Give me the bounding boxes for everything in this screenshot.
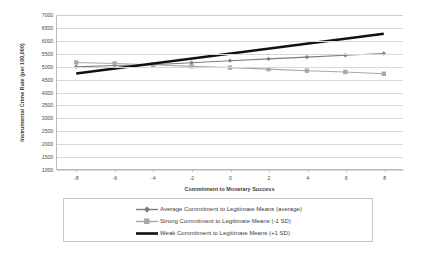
- data-point-marker: [266, 57, 270, 61]
- legend-label: Average Commitment to Legitimate Means (…: [160, 205, 302, 214]
- chart-legend: Average Commitment to Legitimate Means (…: [63, 198, 373, 242]
- legend-marker-diamond-icon: [136, 205, 158, 214]
- x-axis-tick-label: -4: [151, 176, 156, 181]
- y-axis-tick-label: 4500: [42, 78, 53, 83]
- x-axis-tick-mark: [346, 169, 347, 172]
- gridline-horizontal: 3000: [57, 118, 403, 119]
- x-axis-tick-mark: [192, 169, 193, 172]
- gridline-horizontal: 2000: [57, 144, 403, 145]
- y-axis-tick-label: 3000: [42, 117, 53, 122]
- gridline-horizontal: 3500: [57, 105, 403, 106]
- x-axis-tick-mark: [115, 169, 116, 172]
- y-axis-tick-label: 6500: [42, 26, 53, 31]
- x-axis-tick-label: 8: [383, 176, 386, 181]
- y-axis-tick-label: 4000: [42, 91, 53, 96]
- x-axis-tick-mark: [76, 169, 77, 172]
- y-axis-tick-label: 5500: [42, 52, 53, 57]
- data-point-marker: [74, 60, 78, 64]
- y-axis-tick-label: 5000: [42, 65, 53, 70]
- legend-label: Weak Commitment to Legitimate Means (+1 …: [160, 229, 290, 238]
- plot-area: 1000150020002500300035004000450050005500…: [56, 15, 403, 170]
- x-axis-tick-mark: [269, 169, 270, 172]
- x-axis-tick-label: -8: [74, 176, 79, 181]
- x-axis-tick-label: 4: [306, 176, 309, 181]
- y-axis-title: Instrumental Crime Rate (per 100,000): [17, 15, 27, 170]
- legend-item-weak[interactable]: Weak Commitment to Legitimate Means (+1 …: [64, 228, 372, 239]
- x-axis-tick-label: 0: [229, 176, 232, 181]
- gridline-horizontal: 2500: [57, 131, 403, 132]
- x-axis-tick-mark: [385, 169, 386, 172]
- x-axis-tick-label: -6: [113, 176, 118, 181]
- gridline-horizontal: 4500: [57, 80, 403, 81]
- gridline-horizontal: 6000: [57, 41, 403, 42]
- y-axis-tick-label: 3500: [42, 104, 53, 109]
- gridline-horizontal: 1500: [57, 157, 403, 158]
- interaction-line-chart: 1000150020002500300035004000450050005500…: [0, 0, 435, 253]
- data-point-marker: [228, 58, 232, 62]
- x-axis-title: Commitment to Monetary Success: [56, 186, 403, 192]
- gridline-horizontal: 4000: [57, 93, 403, 94]
- legend-item-strong[interactable]: Strong Commitment to Legitimate Means (-…: [64, 216, 372, 227]
- legend-label: Strong Commitment to Legitimate Means (-…: [160, 217, 291, 226]
- gridline-horizontal: 7000: [57, 15, 403, 16]
- y-axis-tick-label: 2500: [42, 130, 53, 135]
- y-axis-tick-label: 1500: [42, 155, 53, 160]
- x-axis-tick-label: 2: [268, 176, 271, 181]
- x-axis-tick-mark: [153, 169, 154, 172]
- gridline-horizontal: 5500: [57, 54, 403, 55]
- data-point-marker: [112, 61, 116, 65]
- x-axis-tick-mark: [308, 169, 309, 172]
- x-axis-tick-label: -2: [190, 176, 195, 181]
- y-axis-tick-label: 1000: [42, 168, 53, 173]
- x-axis-tick-label: 6: [345, 176, 348, 181]
- data-point-marker: [305, 55, 309, 59]
- gridline-horizontal: 5000: [57, 67, 403, 68]
- y-axis-tick-label: 6000: [42, 39, 53, 44]
- legend-marker-square-icon: [136, 217, 158, 226]
- y-axis-tick-label: 2000: [42, 143, 53, 148]
- legend-marker-line-icon: [136, 229, 158, 238]
- data-point-marker: [343, 70, 347, 74]
- data-point-marker: [382, 72, 386, 76]
- legend-item-average[interactable]: Average Commitment to Legitimate Means (…: [64, 204, 372, 215]
- y-axis-tick-label: 7000: [42, 13, 53, 18]
- gridline-horizontal: 6500: [57, 28, 403, 29]
- x-axis-tick-mark: [231, 169, 232, 172]
- data-point-marker: [305, 69, 309, 73]
